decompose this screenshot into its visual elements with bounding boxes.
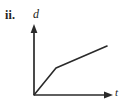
figure-container: ii. d t (0, 0, 125, 107)
x-axis (34, 92, 113, 99)
x-axis-arrowhead-icon (104, 92, 113, 99)
y-axis (31, 24, 38, 95)
y-axis-arrowhead-icon (31, 24, 38, 33)
distance-time-plot (0, 0, 125, 107)
data-series-line (34, 46, 107, 95)
